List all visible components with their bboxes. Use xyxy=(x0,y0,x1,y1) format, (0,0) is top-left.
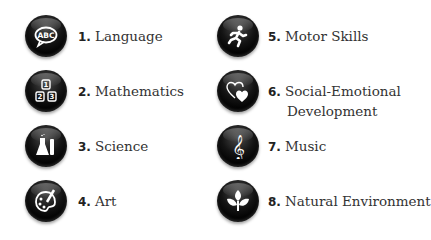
svg-text:2: 2 xyxy=(38,93,43,101)
item-number: 2. xyxy=(78,85,91,99)
flask-test-tube-icon xyxy=(25,125,67,167)
svg-text:1: 1 xyxy=(44,81,49,89)
list-item-art: 4.Art xyxy=(78,192,117,212)
list-item-science: 3.Science xyxy=(78,137,148,157)
item-label: Art xyxy=(95,193,117,209)
two-hearts-icon xyxy=(217,70,259,112)
item-label-line2: Development xyxy=(268,102,401,121)
item-number: 8. xyxy=(268,195,281,209)
svg-text:3: 3 xyxy=(50,93,55,101)
treble-clef-icon: 𝄞 xyxy=(217,125,259,167)
speech-bubble-abc-icon: ABC xyxy=(25,15,67,57)
list-item-language: 1.Language xyxy=(78,27,163,47)
item-label: Science xyxy=(95,138,148,154)
paint-palette-icon xyxy=(25,180,67,222)
item-number: 3. xyxy=(78,140,91,154)
running-figure-icon xyxy=(217,15,259,57)
item-number: 6. xyxy=(268,85,281,99)
item-label: Mathematics xyxy=(95,83,184,99)
list-item-mathematics: 2.Mathematics xyxy=(78,82,184,102)
list-item-music: 7.Music xyxy=(268,137,326,157)
item-number: 5. xyxy=(268,30,281,44)
leaves-plant-icon xyxy=(217,180,259,222)
item-label: Motor Skills xyxy=(285,28,369,44)
list-item-natural-environment: 8.Natural Environment xyxy=(268,192,431,212)
item-number: 1. xyxy=(78,30,91,44)
item-label: Music xyxy=(285,138,326,154)
number-blocks-icon: 123 xyxy=(25,70,67,112)
svg-text:ABC: ABC xyxy=(37,31,55,40)
svg-text:𝄞: 𝄞 xyxy=(232,135,245,159)
item-label: Social-Emotional xyxy=(285,83,401,99)
list-item-motor-skills: 5.Motor Skills xyxy=(268,27,368,47)
item-number: 4. xyxy=(78,195,91,209)
list-item-social-emotional-development: 6.Social-EmotionalDevelopment xyxy=(268,82,401,121)
item-label: Language xyxy=(95,28,163,44)
item-number: 7. xyxy=(268,140,281,154)
item-label: Natural Environment xyxy=(285,193,431,209)
